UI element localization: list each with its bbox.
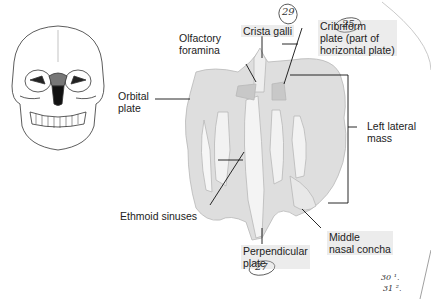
label-line: Crista galli: [243, 25, 292, 37]
label-line: plate: [243, 257, 308, 269]
label-crista-galli: Crista galli: [241, 25, 294, 37]
handwritten-25: 25: [342, 18, 355, 29]
ethmoid-diagram: Olfactory foramina Crista galli Cribrifo…: [0, 0, 431, 299]
label-line: Orbital: [118, 90, 149, 102]
label-line: plate (part of: [320, 32, 395, 44]
label-olfactory-foramina: Olfactory foramina: [179, 32, 221, 56]
label-line: horizontal plate): [320, 44, 395, 56]
label-cribriform-plate: Cribriform plate (part of horizontal pla…: [318, 20, 397, 56]
label-line: Ethmoid sinuses: [120, 210, 197, 222]
label-line: mass: [367, 132, 416, 144]
label-line: nasal concha: [329, 243, 391, 255]
label-line: Left lateral: [367, 120, 416, 132]
handwritten-note-2: 31 ².: [383, 284, 401, 293]
handwritten-note-1: 30 ¹.: [381, 273, 399, 282]
label-left-lateral-mass: Left lateral mass: [367, 120, 416, 144]
label-line: plate: [118, 102, 149, 114]
label-line: foramina: [179, 44, 221, 56]
handwritten-29: 29: [282, 6, 295, 17]
skull-icon: [12, 26, 104, 150]
label-line: Cribriform: [320, 20, 395, 32]
label-line: Olfactory: [179, 32, 221, 44]
label-ethmoid-sinuses: Ethmoid sinuses: [120, 210, 197, 222]
label-orbital-plate: Orbital plate: [118, 90, 149, 114]
label-line: Middle: [329, 231, 391, 243]
label-perpendicular-plate: Perpendicular plate: [241, 245, 310, 269]
label-middle-nasal-concha: Middle nasal concha: [327, 231, 393, 255]
ethmoid-bone: [185, 48, 346, 240]
handwritten-27: 27: [255, 261, 268, 272]
label-line: Perpendicular: [243, 245, 308, 257]
